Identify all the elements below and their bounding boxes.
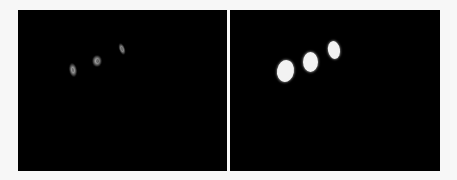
raw-blob-2 xyxy=(92,55,102,67)
right-panel-mask-image xyxy=(230,10,440,171)
mask-blob-2 xyxy=(303,52,318,72)
raw-blob-3 xyxy=(117,42,127,55)
mask-blob-1 xyxy=(275,59,296,84)
raw-blob-1 xyxy=(68,62,78,77)
left-panel-raw-image xyxy=(18,10,227,171)
mask-blob-3 xyxy=(327,40,342,60)
